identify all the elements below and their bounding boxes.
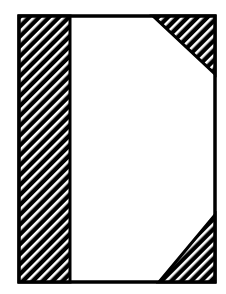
- left-hatched-strip: [19, 16, 70, 282]
- page-diagram: [0, 0, 226, 294]
